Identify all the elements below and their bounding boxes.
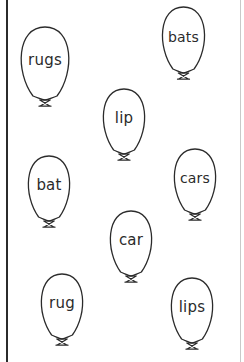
balloon[interactable]: car — [104, 210, 158, 286]
balloon-outline-icon — [104, 210, 158, 286]
balloon[interactable]: rug — [35, 273, 89, 349]
balloon-outline-icon — [168, 148, 222, 224]
balloon-outline-icon — [22, 155, 76, 231]
right-margin-rule — [240, 0, 241, 362]
balloon[interactable]: cars — [168, 148, 222, 224]
balloon[interactable]: lips — [165, 277, 219, 353]
left-margin-rule — [6, 0, 8, 362]
balloon-outline-icon — [35, 273, 89, 349]
balloon-outline-icon — [97, 88, 151, 164]
balloon-outline-icon — [165, 277, 219, 353]
balloon-outline-icon — [14, 26, 76, 110]
balloon[interactable]: bat — [22, 155, 76, 231]
worksheet-page: rugsbatslipcarsbatcarruglips — [0, 0, 244, 362]
balloon[interactable]: bats — [156, 6, 211, 83]
balloon[interactable]: rugs — [14, 26, 76, 110]
balloon-outline-icon — [156, 6, 211, 83]
balloon[interactable]: lip — [97, 88, 151, 164]
